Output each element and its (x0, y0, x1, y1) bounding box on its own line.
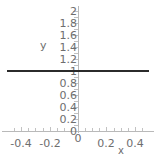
y-axis-label: y (40, 40, 47, 51)
x-minor-tick-mark (43, 128, 44, 131)
x-minor-tick-mark (142, 128, 143, 131)
y-tick-label: 2 (70, 6, 77, 17)
y-tick-label: 0.8 (60, 78, 78, 89)
x-tick-mark (106, 127, 107, 131)
y-tick-label: 1.2 (60, 54, 78, 65)
y-tick-label: 0.4 (60, 102, 78, 113)
x-minor-tick-mark (121, 128, 122, 131)
y-tick-label: 1.4 (60, 42, 78, 53)
x-tick-mark (78, 127, 79, 131)
x-minor-tick-mark (35, 128, 36, 131)
x-minor-tick-mark (64, 128, 65, 131)
x-minor-tick-mark (85, 128, 86, 131)
x-minor-tick-mark (128, 128, 129, 131)
x-minor-tick-mark (28, 128, 29, 131)
x-tick-mark (50, 127, 51, 131)
y-tick-label: 0.2 (60, 114, 78, 125)
y-tick-label: 0.6 (60, 90, 78, 101)
plot-canvas: y x 21.81.61.41.210.80.60.40.20-0.4-0.20… (0, 0, 159, 156)
x-tick-mark (135, 127, 136, 131)
y-tick-label: 1.8 (60, 18, 78, 29)
x-minor-tick-mark (99, 128, 100, 131)
y-tick-label: 1.6 (60, 30, 78, 41)
x-minor-tick-mark (14, 128, 15, 131)
series-line-y-equals-1 (7, 70, 149, 72)
x-tick-label: 0.4 (115, 138, 155, 149)
x-minor-tick-mark (57, 128, 58, 131)
x-minor-tick-mark (114, 128, 115, 131)
x-tick-mark (21, 127, 22, 131)
x-minor-tick-mark (92, 128, 93, 131)
